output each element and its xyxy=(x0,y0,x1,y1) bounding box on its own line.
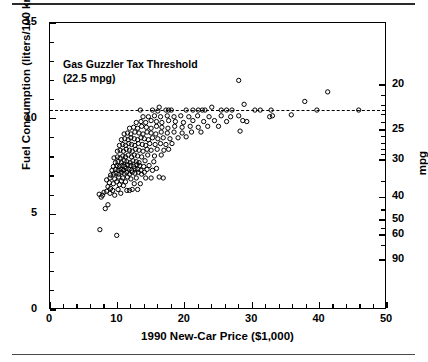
y2-tick-minor xyxy=(381,209,385,210)
data-point xyxy=(237,78,241,82)
data-point xyxy=(191,118,195,122)
data-point xyxy=(181,120,185,124)
y2-tick-label: 60 xyxy=(392,228,404,239)
x-tick-minor xyxy=(306,304,307,308)
x-tick-minor xyxy=(198,304,199,308)
data-point xyxy=(134,176,138,180)
y2-tick-minor xyxy=(381,114,385,115)
y2-tick-major xyxy=(379,129,385,130)
x-tick-minor xyxy=(63,304,64,308)
threshold-annotation-line2: (22.5 mpg) xyxy=(63,72,198,86)
y-tick-minor xyxy=(50,271,54,272)
data-point xyxy=(191,108,195,112)
x-tick-major xyxy=(252,302,253,308)
data-point xyxy=(98,227,102,231)
data-point xyxy=(253,108,257,112)
y-tick-label: 15 xyxy=(25,16,37,27)
y-tick-minor xyxy=(50,42,54,43)
data-point xyxy=(172,115,176,119)
data-point xyxy=(138,182,142,186)
data-point xyxy=(152,154,156,158)
data-point xyxy=(180,125,184,129)
data-point xyxy=(172,130,176,134)
y2-tick-major xyxy=(379,234,385,235)
y-tick-major xyxy=(50,118,56,119)
data-point xyxy=(228,115,232,119)
data-point xyxy=(144,125,148,129)
data-point xyxy=(357,108,361,112)
data-point xyxy=(140,155,144,159)
data-point xyxy=(219,108,223,112)
data-point xyxy=(166,147,170,151)
data-point xyxy=(270,114,274,118)
x-tick-minor xyxy=(279,304,280,308)
data-point xyxy=(168,137,172,141)
data-point xyxy=(165,114,169,118)
x-tick-minor xyxy=(211,304,212,308)
data-point xyxy=(115,233,119,237)
y2-tick-label: 40 xyxy=(392,190,404,201)
x-tick-label: 40 xyxy=(304,313,334,324)
x-tick-label: 50 xyxy=(371,313,401,324)
data-point xyxy=(230,108,234,112)
x-tick-minor xyxy=(103,304,104,308)
x-tick-minor xyxy=(346,304,347,308)
data-point xyxy=(130,187,134,191)
x-tick-minor xyxy=(130,304,131,308)
y2-tick-minor xyxy=(381,143,385,144)
x-tick-minor xyxy=(292,304,293,308)
y-tick-minor xyxy=(50,99,54,100)
data-point xyxy=(164,142,168,146)
data-point xyxy=(161,176,165,180)
x-tick-minor xyxy=(144,304,145,308)
x-tick-minor xyxy=(171,304,172,308)
data-point xyxy=(149,176,153,180)
x-tick-minor xyxy=(157,304,158,308)
data-point xyxy=(184,135,188,139)
data-point xyxy=(135,187,139,191)
data-point xyxy=(216,124,220,128)
y-tick-label: 10 xyxy=(25,112,37,123)
y2-tick-major xyxy=(379,159,385,160)
data-point xyxy=(143,159,147,163)
x-tick-minor xyxy=(90,304,91,308)
data-point xyxy=(180,131,184,135)
data-point xyxy=(224,108,228,112)
x-tick-minor xyxy=(238,304,239,308)
data-point xyxy=(154,119,158,123)
data-point xyxy=(154,124,158,128)
data-point xyxy=(203,108,207,112)
y2-tick-major xyxy=(379,259,385,260)
data-point xyxy=(169,108,173,112)
data-point xyxy=(212,118,216,122)
data-point xyxy=(106,203,110,207)
data-point xyxy=(144,120,148,124)
data-point xyxy=(159,153,163,157)
data-point xyxy=(119,191,123,195)
data-point xyxy=(146,153,150,157)
y2-tick-minor xyxy=(381,105,385,106)
data-point xyxy=(144,176,148,180)
data-point xyxy=(269,108,273,112)
x-tick-minor xyxy=(373,304,374,308)
y-tick-minor xyxy=(50,61,54,62)
y-tick-minor xyxy=(50,195,54,196)
data-point xyxy=(210,105,214,109)
data-point xyxy=(153,142,157,146)
data-point xyxy=(127,188,131,192)
x-tick-minor xyxy=(332,304,333,308)
data-point xyxy=(179,114,183,118)
data-point xyxy=(141,115,145,119)
data-point xyxy=(160,125,164,129)
data-point xyxy=(315,108,319,112)
y2-tick-minor xyxy=(381,136,385,137)
threshold-annotation: Gas Guzzler Tax Threshold (22.5 mpg) xyxy=(63,58,198,85)
data-point xyxy=(268,115,272,119)
data-point xyxy=(159,130,163,134)
x-tick-major xyxy=(386,302,387,308)
y2-tick-label: 50 xyxy=(392,213,404,224)
y-tick-minor xyxy=(50,156,54,157)
threshold-annotation-line1: Gas Guzzler Tax Threshold xyxy=(63,58,198,72)
data-point xyxy=(173,119,177,123)
